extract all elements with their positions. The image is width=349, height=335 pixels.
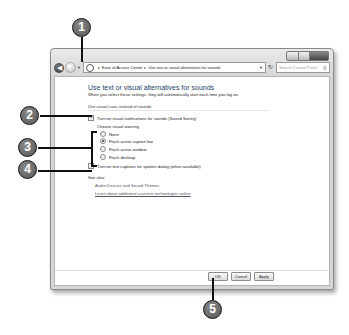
section-divider [88, 110, 269, 111]
see-also-text: See also [88, 175, 104, 180]
sound-sentry-label: Turn on visual notifications for sounds … [97, 116, 196, 121]
callout-4-leader-line [38, 170, 92, 172]
refresh-button[interactable]: ↻ [266, 63, 275, 72]
radio-button[interactable] [100, 154, 106, 160]
address-dropdown-icon[interactable]: ▼ [259, 65, 263, 70]
footer-divider [55, 270, 329, 271]
breadcrumb-chevron-icon[interactable]: ▸ [98, 65, 100, 70]
callout-2: 2 [20, 106, 39, 125]
radio-flash-desktop[interactable]: Flash desktop [100, 154, 135, 160]
callout-3-bracket-top [91, 131, 97, 133]
radio-flash-window[interactable]: Flash active window [100, 146, 146, 152]
search-placeholder: Search Control Panel [279, 65, 317, 70]
visual-warning-label: Choose visual warning [97, 124, 139, 129]
callout-3-bracket [91, 131, 93, 166]
apply-button[interactable]: Apply [254, 272, 274, 281]
radio-label: Flash active caption bar [109, 139, 153, 144]
text-captions-label: Turn on text captions for spoken dialog … [97, 164, 201, 169]
refresh-icon: ↻ [268, 64, 273, 70]
search-icon[interactable]: ⚲ [323, 65, 327, 71]
address-bar[interactable]: ▸ Ease of Access Center ▸ Use text or vi… [83, 62, 266, 73]
radio-none[interactable]: None [100, 131, 119, 137]
breadcrumb-current-page[interactable]: Use text or visual alternatives for soun… [148, 65, 220, 70]
recent-pages-chevron-icon[interactable]: ▼ [77, 65, 81, 70]
control-panel-window: ◀ ▼ ▸ Ease of Access Center ▸ Use text o… [50, 48, 334, 290]
radio-label: Flash active window [109, 147, 146, 152]
see-also-heading: See also [88, 175, 104, 180]
callout-2-leader-line [40, 115, 92, 117]
radio-flash-caption-bar[interactable]: Flash active caption bar [100, 138, 153, 144]
callout-3-leader-line [38, 147, 91, 149]
callout-4: 4 [18, 160, 37, 179]
link-text[interactable]: Audio Devices and Sound Themes [95, 183, 159, 188]
close-button[interactable] [310, 51, 329, 61]
radio-button[interactable] [100, 131, 106, 137]
callout-1-leader-line [81, 37, 83, 62]
radio-button[interactable] [100, 146, 106, 152]
link-audio-devices[interactable]: Audio Devices and Sound Themes [95, 183, 159, 188]
page-title: Use text or visual alternatives for soun… [88, 84, 214, 91]
caption-buttons [286, 51, 329, 61]
callout-3-bracket-bottom [91, 165, 97, 167]
back-arrow-icon: ◀ [57, 64, 62, 71]
visual-warning-text: Choose visual warning [97, 124, 139, 129]
text-captions-option[interactable]: Turn on text captions for spoken dialog … [88, 163, 201, 169]
breadcrumb-chevron-icon[interactable]: ▸ [144, 65, 146, 70]
radio-label: None [109, 132, 119, 137]
link-text[interactable]: Learn about additional assistive technol… [95, 191, 191, 196]
breadcrumb-ease-of-access[interactable]: Ease of Access Center [102, 65, 142, 70]
ok-button[interactable]: OK [208, 272, 228, 281]
callout-1: 1 [72, 18, 91, 37]
content-pane: Use text or visual alternatives for soun… [54, 76, 330, 286]
radio-button[interactable] [100, 138, 106, 144]
callout-3: 3 [18, 138, 37, 157]
radio-label: Flash desktop [109, 155, 135, 160]
search-input[interactable]: Search Control Panel ⚲ [276, 62, 330, 73]
page-subtitle: When you select these settings, they wil… [88, 92, 239, 97]
section-label: Use visual cues instead of sounds [88, 104, 151, 109]
cancel-button[interactable]: Cancel [231, 272, 251, 281]
maximize-button[interactable] [299, 51, 310, 61]
link-assistive-technologies[interactable]: Learn about additional assistive technol… [95, 191, 191, 196]
minimize-button[interactable] [286, 51, 299, 61]
back-button[interactable]: ◀ [54, 63, 64, 73]
callout-5: 5 [203, 300, 222, 319]
navigation-bar: ◀ ▼ ▸ Ease of Access Center ▸ Use text o… [54, 62, 330, 73]
forward-button[interactable] [65, 62, 76, 73]
callout-5-leader-line [212, 278, 214, 300]
sound-sentry-option[interactable]: ✓ Turn on visual notifications for sound… [88, 115, 196, 121]
control-panel-icon [86, 64, 94, 72]
